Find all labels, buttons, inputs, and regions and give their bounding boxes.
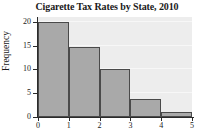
y-tick-mark <box>33 22 37 23</box>
y-tick-mark <box>33 69 37 70</box>
x-tick-label: 0 <box>31 122 45 130</box>
x-tick-label: 2 <box>93 122 107 130</box>
bar <box>130 99 161 117</box>
y-axis-line <box>37 17 38 118</box>
y-tick-label: 0 <box>27 113 31 121</box>
y-tick-mark <box>33 117 37 118</box>
bar <box>100 69 131 117</box>
x-axis-line <box>37 117 194 118</box>
bar <box>38 22 69 117</box>
y-tick-mark <box>33 46 37 47</box>
x-tick-label: 3 <box>123 122 137 130</box>
bar <box>69 47 100 117</box>
x-tick-label: 4 <box>154 122 168 130</box>
plot-area <box>38 17 192 117</box>
x-tick-label: 5 <box>185 122 199 130</box>
y-tick-label: 5 <box>27 89 31 97</box>
y-axis-label: Frequency <box>1 21 11 81</box>
y-tick-label: 15 <box>23 42 31 50</box>
y-tick-mark <box>33 93 37 94</box>
histogram-chart: Cigarette Tax Rates by State, 2010 Frequ… <box>0 0 214 132</box>
chart-title: Cigarette Tax Rates by State, 2010 <box>0 1 214 12</box>
x-tick-label: 1 <box>62 122 76 130</box>
y-tick-label: 10 <box>23 65 31 73</box>
y-tick-label: 20 <box>23 18 31 26</box>
